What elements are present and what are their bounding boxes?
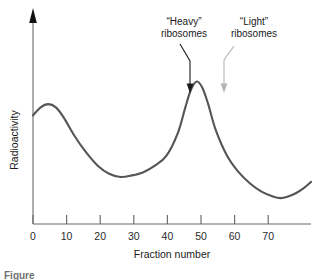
x-axis-tick-labels: 0 10 20 30 40 50 60 70: [30, 230, 274, 242]
radioactivity-chart: 0 10 20 30 40 50 60 70 Fraction number R…: [0, 0, 324, 280]
light-annotation-leader-line: [224, 46, 234, 84]
x-axis-ticks: [33, 215, 268, 224]
x-tick-label-0: 0: [30, 230, 36, 242]
y-axis-arrowhead-icon: [29, 8, 37, 23]
x-tick-label-4: 40: [162, 230, 174, 242]
figure-caption: Figure: [4, 270, 35, 280]
heavy-annotation-line1: “Heavy”: [166, 16, 201, 27]
x-tick-label-3: 30: [128, 230, 140, 242]
heavy-annotation-line2: ribosomes: [161, 28, 207, 39]
light-annotation-line1: “Light”: [240, 16, 268, 27]
x-tick-label-7: 70: [262, 230, 274, 242]
light-annotation-line2: ribosomes: [231, 28, 277, 39]
light-annotation: “Light” ribosomes: [221, 16, 277, 93]
heavy-annotation: “Heavy” ribosomes: [161, 16, 207, 93]
x-tick-label-5: 50: [195, 230, 207, 242]
x-tick-label-1: 10: [61, 230, 73, 242]
x-tick-label-2: 20: [94, 230, 106, 242]
heavy-annotation-leader-line: [180, 44, 190, 84]
figure-container: 0 10 20 30 40 50 60 70 Fraction number R…: [0, 0, 324, 280]
x-tick-label-6: 60: [229, 230, 241, 242]
light-annotation-arrowhead-icon: [221, 84, 228, 94]
x-axis-title: Fraction number: [134, 248, 211, 260]
y-axis-title: Radioactivity: [8, 109, 20, 169]
radioactivity-curve: [33, 81, 311, 198]
